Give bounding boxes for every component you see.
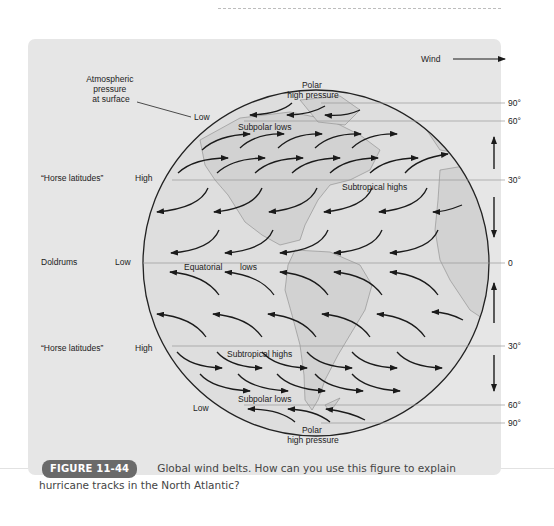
pressure-label-low-equator: Low: [115, 257, 131, 267]
annotation-leader-line: [137, 102, 191, 117]
lat-label-90s: 90°: [508, 418, 521, 428]
pressure-label-low-north: Low: [194, 112, 210, 122]
figure-badge: FIGURE 11-44: [42, 460, 137, 478]
belt-label-lows: lows: [240, 262, 257, 272]
belt-label-polar-high-north: Polar high pressure: [287, 80, 339, 100]
zone-label-horse-latitudes-south: “Horse latitudes”: [41, 343, 104, 353]
lat-label-60n: 60°: [508, 116, 521, 126]
belt-label-subtropical-highs-south: Subtropical highs: [227, 349, 292, 359]
zone-label-doldrums: Doldrums: [41, 257, 77, 267]
lat-label-30n: 30°: [508, 175, 521, 185]
pressure-label-high-north: High: [135, 173, 153, 183]
belt-label-equatorial: Equatorial: [184, 262, 222, 272]
belt-label-subpolar-lows-north: Subpolar lows: [238, 122, 291, 132]
zone-label-horse-latitudes-north: “Horse latitudes”: [41, 173, 104, 183]
atmospheric-pressure-annotation: Atmospheric pressure at surface: [86, 74, 136, 104]
global-wind-belts-diagram: 90° 60° 30° 0 30° 60° 90° Wind Atmospher…: [0, 0, 554, 526]
lat-label-0: 0: [508, 258, 513, 268]
lat-label-30s: 30°: [508, 341, 521, 351]
figure-caption: FIGURE 11-44Global wind belts. How can y…: [39, 460, 489, 492]
legend-wind-label: Wind: [421, 54, 441, 64]
belt-label-subtropical-highs-north: Subtropical highs: [342, 182, 407, 192]
pressure-label-low-south: Low: [193, 403, 209, 413]
belt-label-subpolar-lows-south: Subpolar lows: [238, 394, 291, 404]
lat-label-60s: 60°: [508, 400, 521, 410]
lat-label-90n: 90°: [508, 98, 521, 108]
pressure-label-high-south: High: [135, 343, 153, 353]
